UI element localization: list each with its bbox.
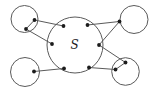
- point-dot-inner-bottom-right: [87, 66, 91, 70]
- point-dot-inner-bottom-left: [62, 67, 66, 71]
- satellite-circle-top-right: [120, 6, 148, 34]
- point-dot-outer-tl-b: [24, 27, 28, 31]
- point-dot-inner-top-right: [86, 23, 90, 27]
- point-dot-inner-top-left: [62, 24, 66, 28]
- point-dot-outer-tr: [118, 20, 122, 24]
- point-dot-inner-right: [97, 43, 101, 47]
- set-label: S: [70, 38, 78, 52]
- point-dot-outer-br-a: [124, 61, 128, 65]
- point-dot-outer-bl: [32, 70, 36, 74]
- edge-outer-tl-a--inner-top-left: [35, 20, 64, 26]
- set-diagram: S: [0, 0, 150, 94]
- point-dot-outer-br-b: [114, 68, 118, 72]
- point-dot-outer-tl-a: [33, 18, 37, 22]
- set-diagram-figure: S: [0, 0, 150, 94]
- circles-layer: [11, 6, 149, 87]
- edge-outer-bl--inner-bottom-left: [34, 69, 64, 72]
- point-dot-inner-left: [50, 42, 54, 46]
- edge-outer-tr--inner-right: [99, 22, 120, 46]
